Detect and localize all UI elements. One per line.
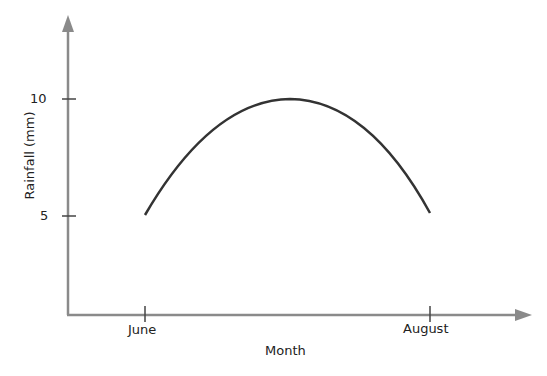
x-tick-label-june: June	[128, 322, 156, 337]
y-axis-label: Rainfall (mm)	[22, 106, 37, 206]
rainfall-curve	[145, 99, 430, 215]
x-axis-arrow-icon	[515, 309, 532, 321]
chart-plot	[0, 0, 547, 376]
x-tick-label-august: August	[403, 321, 449, 336]
y-axis-arrow-icon	[62, 15, 74, 32]
y-tick-label-10: 10	[30, 91, 47, 106]
y-tick-label-5: 5	[40, 208, 48, 223]
chart: 10 5 June August Month Rainfall (mm)	[0, 0, 547, 376]
x-axis-label: Month	[265, 343, 306, 358]
